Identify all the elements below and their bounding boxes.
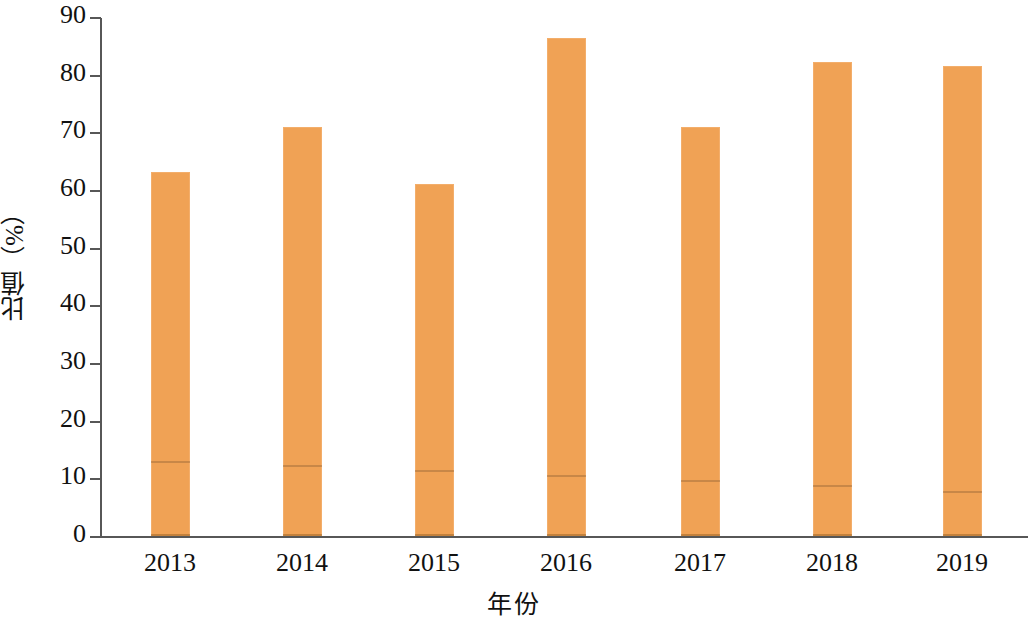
y-tick-label-10: 10 <box>26 463 86 489</box>
y-tick-40 <box>90 305 101 307</box>
y-tick-label-70: 70 <box>26 117 86 143</box>
y-tick-label-80: 80 <box>26 60 86 86</box>
x-tick-label-2019: 2019 <box>907 548 1017 578</box>
bar-2016 <box>547 38 586 537</box>
y-tick-label-20: 20 <box>26 406 86 432</box>
bar-inner-divider-2013 <box>151 461 190 463</box>
x-axis-line <box>100 536 1028 538</box>
y-tick-20 <box>90 421 101 423</box>
bar-chart: 比值（%） 9080706050403020100 20132014201520… <box>0 0 1028 627</box>
x-tick-label-2016: 2016 <box>511 548 621 578</box>
bar-inner-divider-2015 <box>415 470 454 472</box>
y-tick-50 <box>90 248 101 250</box>
y-tick-label-50: 50 <box>26 233 86 259</box>
bar-2014 <box>283 127 322 537</box>
bar-2018 <box>813 62 852 537</box>
x-tick-label-2014: 2014 <box>247 548 357 578</box>
bar-inner-divider-2016 <box>547 475 586 477</box>
bar-2019 <box>943 66 982 537</box>
x-tick-label-2015: 2015 <box>379 548 489 578</box>
y-axis-line <box>100 18 102 537</box>
y-tick-label-30: 30 <box>26 348 86 374</box>
y-tick-10 <box>90 478 101 480</box>
plot-area: 比值（%） 9080706050403020100 20132014201520… <box>0 0 1028 627</box>
bar-inner-divider-2018 <box>813 485 852 487</box>
y-tick-70 <box>90 132 101 134</box>
x-tick-label-2017: 2017 <box>645 548 755 578</box>
x-tick-label-2013: 2013 <box>115 548 225 578</box>
y-tick-label-40: 40 <box>26 290 86 316</box>
y-tick-label-0: 0 <box>26 521 86 547</box>
bar-2015 <box>415 184 454 537</box>
y-tick-80 <box>90 75 101 77</box>
y-tick-60 <box>90 190 101 192</box>
bar-inner-divider-2014 <box>283 465 322 467</box>
y-tick-90 <box>90 17 101 19</box>
y-tick-30 <box>90 363 101 365</box>
bar-inner-divider-2017 <box>681 480 720 482</box>
y-tick-label-90: 90 <box>26 2 86 28</box>
x-axis-title: 年份 <box>0 584 1028 620</box>
y-tick-label-60: 60 <box>26 175 86 201</box>
bar-2017 <box>681 127 720 537</box>
bar-2013 <box>151 172 190 537</box>
bar-inner-divider-2019 <box>943 491 982 493</box>
x-tick-label-2018: 2018 <box>777 548 887 578</box>
